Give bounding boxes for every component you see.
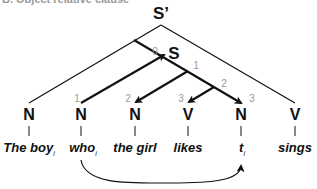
step-number-1: 1 <box>193 60 199 71</box>
node-num-who: 1 <box>74 93 80 104</box>
tree-lines <box>0 0 317 189</box>
step-number-0: 0 <box>152 46 158 57</box>
node-s-prime: S’ <box>153 4 169 24</box>
syntax-tree-diagram: B. Object relative clause S’ S 0 1 2 1 2 <box>0 0 317 189</box>
arrow-to-likes <box>189 87 214 102</box>
word-likes: likes <box>174 140 203 155</box>
node-s: S <box>168 44 179 64</box>
movement-arc <box>81 160 241 183</box>
branch-sprime-left <box>29 25 161 103</box>
word-trace: ti <box>239 140 245 157</box>
word-the-girl: the girl <box>113 140 156 155</box>
cat-v-sings: V <box>290 106 301 124</box>
cat-n-the-boy: N <box>23 106 35 124</box>
cat-n-trace: N <box>235 106 247 124</box>
cat-n-the-girl: N <box>129 106 141 124</box>
word-who: whoi <box>69 140 97 157</box>
cat-v-likes: V <box>183 106 194 124</box>
word-sings: sings <box>278 140 312 155</box>
cat-n-who: N <box>75 106 87 124</box>
arrow-who-to-s <box>81 55 164 103</box>
step-number-2: 2 <box>221 78 227 89</box>
word-the-boy: The boyi <box>3 140 54 157</box>
node-num-likes: 3 <box>178 93 184 104</box>
node-num-trace: 3 <box>249 93 255 104</box>
node-num-the-girl: 2 <box>125 93 131 104</box>
branch-sprime-right <box>161 25 295 103</box>
